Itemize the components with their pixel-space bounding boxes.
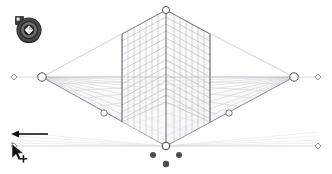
horizontal-grid-plane-control[interactable]	[163, 161, 169, 167]
perspective-grid-drawing[interactable]	[0, 0, 332, 174]
plane-switching-widget[interactable]	[14, 15, 42, 43]
right-grid-extent-handle[interactable]	[226, 110, 232, 116]
vertical-extent-handle-top[interactable]	[162, 6, 169, 13]
horizon-left-handle[interactable]	[11, 74, 17, 80]
ground-level-left-handle[interactable]	[11, 143, 17, 149]
left-vanishing-point[interactable]	[38, 73, 46, 81]
drag-direction-arrow	[11, 131, 48, 138]
horizon-right-handle[interactable]	[315, 74, 321, 80]
perspective-grid-canvas[interactable]	[0, 0, 332, 174]
right-vanishing-point[interactable]	[290, 73, 298, 81]
station-point-handle[interactable]	[162, 142, 170, 150]
left-grid-plane-control[interactable]	[150, 152, 156, 158]
ground-level-right-handle[interactable]	[315, 143, 321, 149]
right-grid-plane-control[interactable]	[176, 152, 182, 158]
widget-corner-mark	[17, 18, 20, 21]
left-grid-extent-handle[interactable]	[101, 110, 107, 116]
